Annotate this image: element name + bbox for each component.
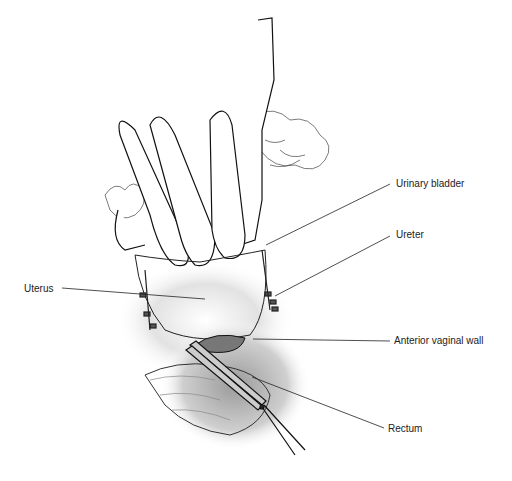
label-rectum: Rectum xyxy=(388,423,422,435)
surgical-illustration xyxy=(0,0,512,481)
label-uterus: Uterus xyxy=(24,283,53,295)
label-urinary-bladder: Urinary bladder xyxy=(396,178,464,190)
label-ureter: Ureter xyxy=(396,229,424,241)
label-anterior-vaginal-wall: Anterior vaginal wall xyxy=(394,335,484,347)
hand xyxy=(115,18,274,266)
